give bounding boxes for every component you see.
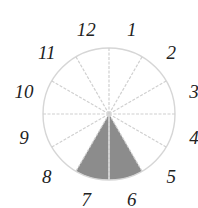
clock-label-10: 10 bbox=[14, 81, 34, 102]
clock-label-2: 2 bbox=[166, 42, 176, 63]
spoke-line bbox=[76, 57, 109, 114]
spoke-line bbox=[109, 81, 166, 114]
clock-diagram: 121234567891011 bbox=[0, 0, 198, 208]
clock-label-5: 5 bbox=[166, 166, 176, 187]
clock-label-1: 1 bbox=[127, 19, 137, 40]
spoke-line bbox=[109, 57, 142, 114]
clock-label-4: 4 bbox=[189, 127, 198, 148]
clock-label-7: 7 bbox=[81, 189, 92, 208]
spoke-line bbox=[52, 81, 109, 114]
clock-label-11: 11 bbox=[38, 42, 56, 63]
clock-label-3: 3 bbox=[188, 81, 198, 102]
clock-label-8: 8 bbox=[42, 166, 52, 187]
clock-label-12: 12 bbox=[77, 19, 97, 40]
clock-label-6: 6 bbox=[127, 189, 137, 208]
clock-label-9: 9 bbox=[19, 127, 29, 148]
